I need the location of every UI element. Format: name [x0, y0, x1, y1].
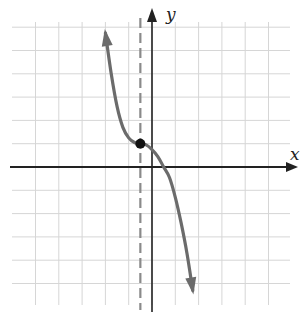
graph: x y — [0, 0, 300, 317]
axes — [10, 8, 298, 312]
x-axis-label: x — [290, 144, 300, 164]
curve-arrow-up-icon — [102, 29, 113, 47]
inflection-point — [135, 139, 145, 149]
function-curve — [105, 33, 192, 290]
y-axis-label: y — [165, 4, 176, 24]
grid-lines — [12, 22, 290, 305]
curve-arrow-down-icon — [185, 277, 196, 295]
